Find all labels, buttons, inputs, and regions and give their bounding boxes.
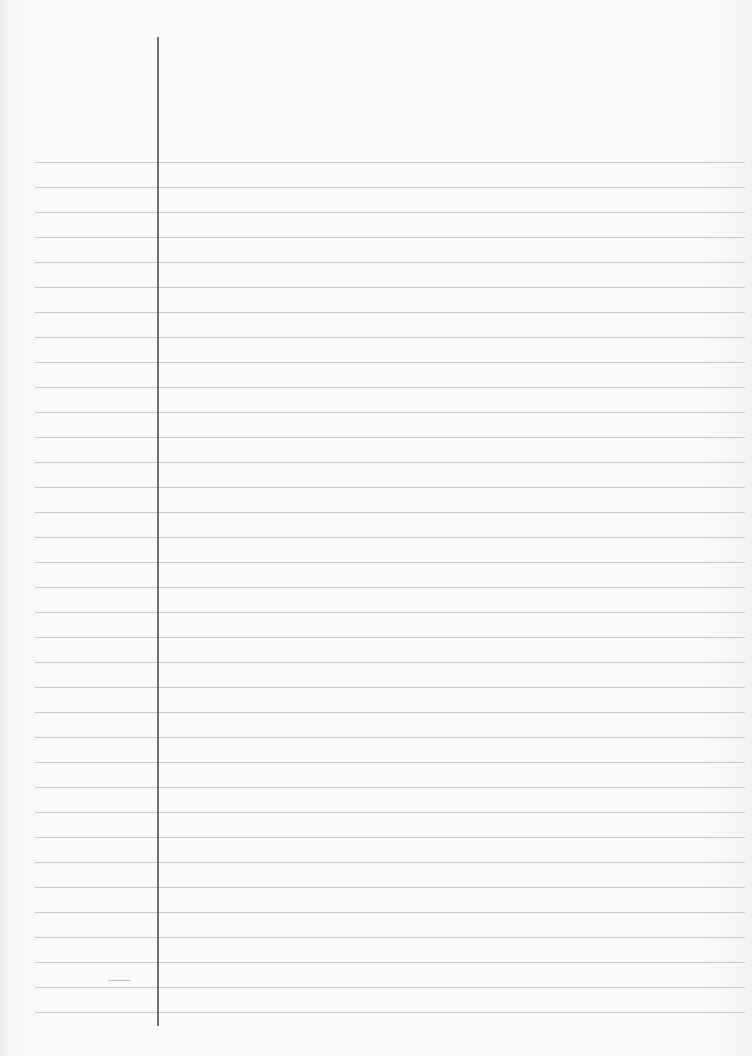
- stray-mark: [108, 980, 130, 981]
- ruled-line: [35, 487, 745, 488]
- ruled-line: [35, 212, 745, 213]
- ruled-line: [35, 787, 745, 788]
- ruled-line: [35, 712, 745, 713]
- ruled-line: [35, 462, 745, 463]
- lined-paper-sheet: [0, 0, 752, 1056]
- ruled-line: [35, 837, 745, 838]
- ruled-line: [35, 287, 745, 288]
- ruled-line: [35, 587, 745, 588]
- ruled-line: [35, 262, 745, 263]
- ruled-line: [35, 337, 745, 338]
- ruled-line: [35, 387, 745, 388]
- ruled-line: [35, 737, 745, 738]
- ruled-line: [35, 512, 745, 513]
- ruled-line: [35, 637, 745, 638]
- ruled-line: [35, 1012, 745, 1013]
- ruled-line: [35, 612, 745, 613]
- ruled-line: [35, 437, 745, 438]
- ruled-line: [35, 762, 745, 763]
- ruled-line: [35, 237, 745, 238]
- ruled-line: [35, 562, 745, 563]
- ruled-line: [35, 662, 745, 663]
- ruled-line: [35, 987, 745, 988]
- ruled-line: [35, 537, 745, 538]
- ruled-line: [35, 962, 745, 963]
- ruled-line: [35, 312, 745, 313]
- ruled-line: [35, 937, 745, 938]
- ruled-line: [35, 687, 745, 688]
- ruled-line: [35, 812, 745, 813]
- ruled-line: [35, 912, 745, 913]
- ruled-line: [35, 362, 745, 363]
- ruled-line: [35, 187, 745, 188]
- margin-line: [157, 37, 159, 1026]
- ruled-line: [35, 162, 745, 163]
- ruled-line: [35, 412, 745, 413]
- ruled-line: [35, 887, 745, 888]
- ruled-line: [35, 862, 745, 863]
